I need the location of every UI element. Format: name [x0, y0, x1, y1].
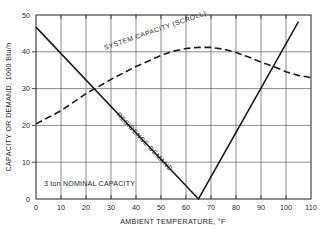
x-tick-label-10: 10	[57, 203, 65, 212]
x-tick-label-30: 30	[107, 203, 115, 212]
y-axis-title: CAPACITY OR DEMAND, 1000 Btu/h	[5, 43, 13, 172]
y-tick-label-10: 10	[22, 158, 30, 167]
x-axis-title: AMBIENT TEMPERATURE, °F	[120, 218, 226, 226]
x-tick-label-110: 110	[305, 203, 316, 212]
nominal-capacity-note: 3 ton NOMINAL CAPACITY	[44, 180, 135, 188]
y-tick-label-50: 50	[22, 11, 30, 20]
x-tick-label-90: 90	[257, 203, 265, 212]
x-tick-label-20: 20	[82, 203, 90, 212]
y-tick-label-40: 40	[22, 47, 30, 56]
y-tick-label-20: 20	[22, 121, 30, 130]
x-tick-label-70: 70	[207, 203, 215, 212]
x-tick-label-80: 80	[232, 203, 240, 212]
x-tick-label-0: 0	[34, 203, 38, 212]
y-tick-label-0: 0	[26, 195, 30, 204]
x-tick-label-50: 50	[157, 203, 165, 212]
capacity-vs-ambient-temperature-chart: 0 10 20 30 40 50 60 70 80 90 100 110 0 1…	[0, 0, 329, 234]
x-tick-label-60: 60	[182, 203, 190, 212]
y-tick-label-30: 30	[22, 84, 30, 93]
x-tick-label-100: 100	[280, 203, 292, 212]
x-tick-label-40: 40	[132, 203, 140, 212]
chart-figure: 0 10 20 30 40 50 60 70 80 90 100 110 0 1…	[0, 0, 329, 234]
